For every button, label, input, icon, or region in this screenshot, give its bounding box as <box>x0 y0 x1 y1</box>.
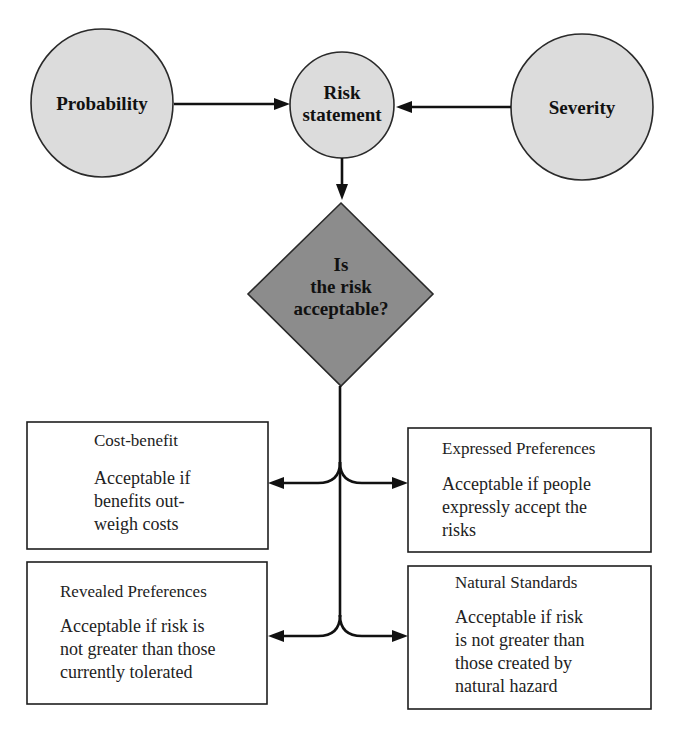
branch-to-natural-standards <box>340 615 394 636</box>
criterion-title: Cost-benefit <box>94 431 178 450</box>
criterion-revealed-preferences: Revealed Preferences Acceptable if risk … <box>27 562 267 704</box>
criterion-expressed-preferences: Expressed Preferences Acceptable if peop… <box>408 428 651 552</box>
criterion-body-line: weigh costs <box>94 514 179 534</box>
criterion-body-line: benefits out- <box>94 491 184 511</box>
severity-label: Severity <box>549 97 616 118</box>
risk-statement-label-line2: statement <box>302 104 382 125</box>
criterion-body-line: Acceptable if <box>94 468 190 488</box>
probability-label: Probability <box>56 93 148 114</box>
criterion-body-line: expressly accept the <box>442 497 587 517</box>
branch-to-expressed-preferences <box>340 462 394 483</box>
criterion-body-line: currently tolerated <box>60 662 192 682</box>
criterion-body-line: Acceptable if risk is <box>60 616 204 636</box>
node-probability: Probability <box>31 29 173 177</box>
criterion-cost-benefit: Cost-benefit Acceptable if benefits out-… <box>27 422 268 549</box>
edge-severity-to-risk <box>396 101 511 113</box>
branch-to-revealed-preferences <box>282 615 340 636</box>
criterion-body-line: natural hazard <box>455 676 557 696</box>
criterion-natural-standards: Natural Standards Acceptable if risk is … <box>408 566 651 709</box>
decision-label-line3: acceptable? <box>294 298 389 319</box>
criterion-title: Expressed Preferences <box>442 439 595 458</box>
node-risk-statement: Risk statement <box>290 52 394 158</box>
criterion-body-line: not greater than those <box>60 639 215 659</box>
arrow-right-icon <box>392 477 408 489</box>
arrow-right-icon <box>392 630 408 642</box>
arrow-down-icon <box>336 184 348 200</box>
node-decision: Is the risk acceptable? <box>248 203 433 386</box>
criterion-title: Revealed Preferences <box>60 582 207 601</box>
edge-risk-to-decision <box>336 158 348 200</box>
risk-statement-label-line1: Risk <box>324 82 361 103</box>
criterion-body-line: is not greater than <box>455 630 584 650</box>
arrow-right-icon <box>274 98 290 110</box>
criterion-body-line: Acceptable if people <box>442 474 591 494</box>
node-severity: Severity <box>511 34 653 180</box>
branch-to-cost-benefit <box>282 462 340 483</box>
arrow-left-icon <box>268 630 284 642</box>
arrow-left-icon <box>268 477 284 489</box>
edge-probability-to-risk <box>174 98 290 110</box>
criterion-body-line: those created by <box>455 653 572 673</box>
criterion-body-line: risks <box>442 520 476 540</box>
risk-acceptability-diagram: Probability Risk statement Severity Is t… <box>0 0 678 732</box>
decision-branches <box>268 386 408 642</box>
decision-label-line1: Is <box>334 254 349 275</box>
decision-label-line2: the risk <box>310 276 372 297</box>
criterion-title: Natural Standards <box>455 573 577 592</box>
arrow-left-icon <box>396 101 412 113</box>
criterion-body-line: Acceptable if risk <box>455 607 583 627</box>
